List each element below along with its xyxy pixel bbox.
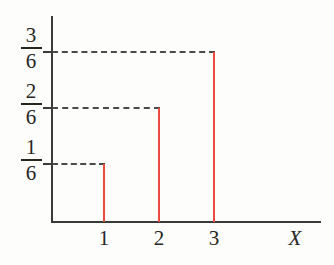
x-axis-label-2: 2 xyxy=(146,228,172,249)
guide-line-1-6 xyxy=(52,163,105,165)
y-label-numerator: 3 xyxy=(16,24,46,46)
y-label-denominator: 6 xyxy=(16,162,46,184)
bar-x-2 xyxy=(158,108,160,222)
y-label-denominator: 6 xyxy=(16,106,46,128)
y-axis-label-2-6: 2 6 xyxy=(16,80,46,129)
x-tick-3 xyxy=(213,214,215,222)
guide-line-2-6 xyxy=(52,107,160,109)
x-tick-1 xyxy=(103,214,105,222)
x-axis-label-1: 1 xyxy=(91,228,117,249)
guide-line-3-6 xyxy=(52,51,215,53)
x-axis-label-3: 3 xyxy=(201,228,227,249)
x-tick-2 xyxy=(158,214,160,222)
y-axis-label-3-6: 3 6 xyxy=(16,24,46,73)
y-axis-label-1-6: 1 6 xyxy=(16,136,46,185)
y-label-denominator: 6 xyxy=(16,50,46,72)
probability-mass-function-chart: 3 6 2 6 1 6 1 2 3 X xyxy=(0,0,334,265)
x-axis-line xyxy=(51,221,321,223)
x-axis-variable-label: X xyxy=(282,228,308,249)
y-label-numerator: 2 xyxy=(16,80,46,102)
y-label-numerator: 1 xyxy=(16,136,46,158)
y-axis-line xyxy=(51,16,53,223)
bar-x-3 xyxy=(213,52,215,222)
